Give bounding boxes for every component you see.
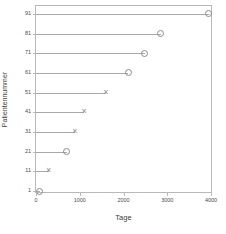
y-axis-tick-label: 1 xyxy=(28,188,31,194)
patient-followup-chart: Patientennummer ×××× 1112131415161718191… xyxy=(0,0,226,234)
x-axis-tick-label: 0 xyxy=(34,198,37,204)
plot-area: ×××× 1112131415161718191 010002000300040… xyxy=(35,5,212,193)
y-axis-tick xyxy=(33,73,36,74)
y-axis-tick-label: 41 xyxy=(25,110,31,116)
x-axis-tick xyxy=(211,192,212,196)
y-axis-tick xyxy=(33,132,36,133)
y-axis-tick xyxy=(33,34,36,35)
open-circle-marker-icon xyxy=(141,50,148,57)
patient-duration-line xyxy=(36,53,145,54)
open-circle-marker-icon xyxy=(63,148,70,155)
x-axis-tick-label: 1000 xyxy=(74,198,86,204)
patient-duration-line xyxy=(36,14,209,15)
y-axis-tick-label: 91 xyxy=(25,11,31,17)
y-axis-title: Patientennummer xyxy=(0,5,10,193)
x-axis-tick xyxy=(124,192,125,196)
patient-duration-line xyxy=(36,93,106,94)
x-axis-tick xyxy=(80,192,81,196)
x-axis-title: Tage xyxy=(35,214,212,222)
x-axis-tick-label: 4000 xyxy=(205,198,217,204)
patient-duration-line xyxy=(36,152,67,153)
y-axis-tick xyxy=(33,14,36,15)
x-cross-marker-icon: × xyxy=(45,167,53,175)
patient-duration-line xyxy=(36,34,161,35)
x-axis-title-label: Tage xyxy=(115,213,131,222)
open-circle-marker-icon xyxy=(157,30,164,37)
y-axis-tick-label: 71 xyxy=(25,50,31,56)
patient-duration-line xyxy=(36,73,128,74)
patient-duration-line xyxy=(36,132,75,133)
y-axis-tick-label: 11 xyxy=(25,169,31,175)
y-axis-tick xyxy=(33,53,36,54)
y-axis-tick xyxy=(33,152,36,153)
open-circle-marker-icon xyxy=(36,188,43,195)
x-cross-marker-icon: × xyxy=(71,128,79,136)
open-circle-marker-icon xyxy=(125,69,132,76)
x-cross-marker-icon: × xyxy=(102,89,110,97)
patient-duration-line xyxy=(36,112,84,113)
y-axis-tick-label: 61 xyxy=(25,70,31,76)
x-axis-tick xyxy=(36,192,37,196)
y-axis-tick-label: 51 xyxy=(25,90,31,96)
y-axis-tick-label: 21 xyxy=(25,149,31,155)
x-axis-tick-label: 2000 xyxy=(117,198,129,204)
x-axis-tick xyxy=(167,192,168,196)
y-axis-tick-label: 81 xyxy=(25,31,31,37)
x-axis-tick-label: 3000 xyxy=(161,198,173,204)
y-axis-title-label: Patientennummer xyxy=(2,71,9,126)
x-cross-marker-icon: × xyxy=(80,108,88,116)
open-circle-marker-icon xyxy=(205,10,212,17)
y-axis-tick xyxy=(33,93,36,94)
y-axis-tick xyxy=(33,171,36,172)
y-axis-tick xyxy=(33,112,36,113)
y-axis-tick-label: 31 xyxy=(25,129,31,135)
